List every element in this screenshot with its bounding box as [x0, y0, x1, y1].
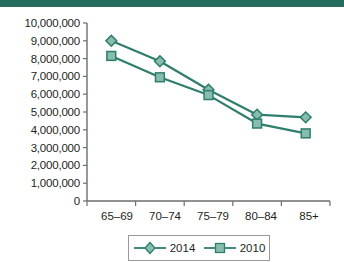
line-chart: 10,000,000 9,000,000 8,000,000 7,000,000… [0, 7, 344, 262]
data-point-2010-80–84 [253, 119, 262, 128]
x-axis-ticks [87, 201, 330, 206]
data-point-2010-70–74 [155, 73, 164, 82]
legend-item-2010: 2010 [203, 240, 266, 256]
data-point-2010-85+ [301, 129, 310, 138]
data-point-2014-65–69 [106, 35, 117, 46]
legend-item-2014: 2014 [133, 240, 196, 256]
legend-label-2014: 2014 [170, 242, 196, 254]
data-point-2014-85+ [300, 112, 311, 123]
data-point-2010-65–69 [107, 52, 116, 61]
diamond-marker-icon [133, 240, 167, 256]
square-marker-icon [203, 240, 237, 256]
data-point-2010-75–79 [204, 91, 213, 100]
data-point-2014-70–74 [155, 56, 166, 67]
legend-label-2010: 2010 [240, 242, 266, 254]
chart-legend: 2014 2010 [128, 235, 270, 261]
axis-lines [87, 23, 330, 201]
header-band [0, 0, 344, 7]
plot-canvas [0, 7, 344, 262]
series-line-2014 [111, 41, 305, 118]
